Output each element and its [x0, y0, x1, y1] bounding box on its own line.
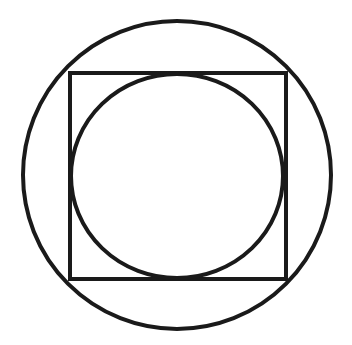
diagram-canvas: Circle inscribed in square inscribed in …: [0, 0, 352, 345]
geometry-figure: [0, 0, 352, 345]
inner-circle: [71, 74, 283, 278]
